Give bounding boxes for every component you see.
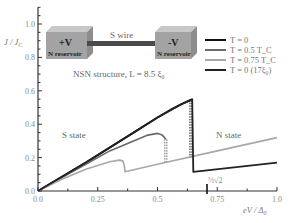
legend-label: T = 0.5 T_C xyxy=(230,45,272,55)
x-tick-label: 0.75 xyxy=(210,195,224,204)
x-tick-label: 0.5 xyxy=(153,195,163,204)
y-tick-label: 0.2 xyxy=(25,154,35,163)
y-axis-label: J / JC xyxy=(4,37,23,48)
right-reservoir-label: N reservoir xyxy=(157,50,191,58)
y-tick-label: 0.8 xyxy=(25,53,35,62)
y-tick-label: 1.0 xyxy=(25,20,35,29)
x-tick-label: 0.25 xyxy=(91,195,105,204)
left-reservoir-top xyxy=(46,26,93,32)
n-state-label: N state xyxy=(216,130,241,140)
legend-label: T = 0 (17ξ₀) xyxy=(230,65,272,75)
wire-label: S wire xyxy=(110,30,133,40)
legend: T = 0T = 0.5 T_CT = 0.75 T_CT = 0 (17ξ₀) xyxy=(205,35,276,75)
series-group xyxy=(38,99,277,191)
chart: +V N reservoir S wire -V N reservoir NSN… xyxy=(0,0,292,223)
y-tick-label: 0.4 xyxy=(25,120,35,129)
nsn-structure-diagram: +V N reservoir S wire -V N reservoir NSN… xyxy=(46,26,197,79)
left-reservoir-label: N reservoir xyxy=(48,50,82,58)
legend-label: T = 0.75 T_C xyxy=(230,55,276,65)
right-reservoir-top xyxy=(155,26,197,32)
y-tick-label: 0.6 xyxy=(25,87,35,96)
series-line-3 xyxy=(38,138,277,191)
half-root-two-label: ½√2 xyxy=(208,176,222,185)
structure-caption: NSN structure, L = 8.5 ξ₀ xyxy=(73,69,165,79)
x-axis-label: eV / Δ0 xyxy=(243,205,266,216)
s-wire xyxy=(87,41,157,46)
left-reservoir-voltage: +V xyxy=(59,37,73,48)
s-state-label: S state xyxy=(62,130,86,140)
x-tick-label: 0.0 xyxy=(33,195,43,204)
legend-label: T = 0 xyxy=(230,35,248,45)
x-tick-label: 1.0 xyxy=(272,195,282,204)
right-reservoir-voltage: -V xyxy=(168,37,179,48)
